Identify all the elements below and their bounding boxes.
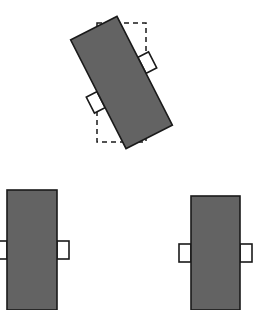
panel-bottom-right-tab-right [240,244,252,262]
panel-bottom-left-group [0,190,69,310]
panel-diagram: Rotated rectangular panel with axis-alig… [0,0,259,310]
panel-bottom-left-body [7,190,57,310]
rotated-panel-shape [60,11,183,154]
figure-canvas: Rotated rectangular panel with axis-alig… [0,0,259,310]
panel-bottom-right-body [191,196,240,310]
panel-bottom-right-group [179,196,252,310]
panel-bottom-left-tab-right [57,241,69,259]
panel-bottom-left-tab-left [0,241,7,259]
panel-bottom-right-tab-left [179,244,191,262]
rotated-panel-body [71,16,173,148]
rotated-panel-group [60,11,183,154]
